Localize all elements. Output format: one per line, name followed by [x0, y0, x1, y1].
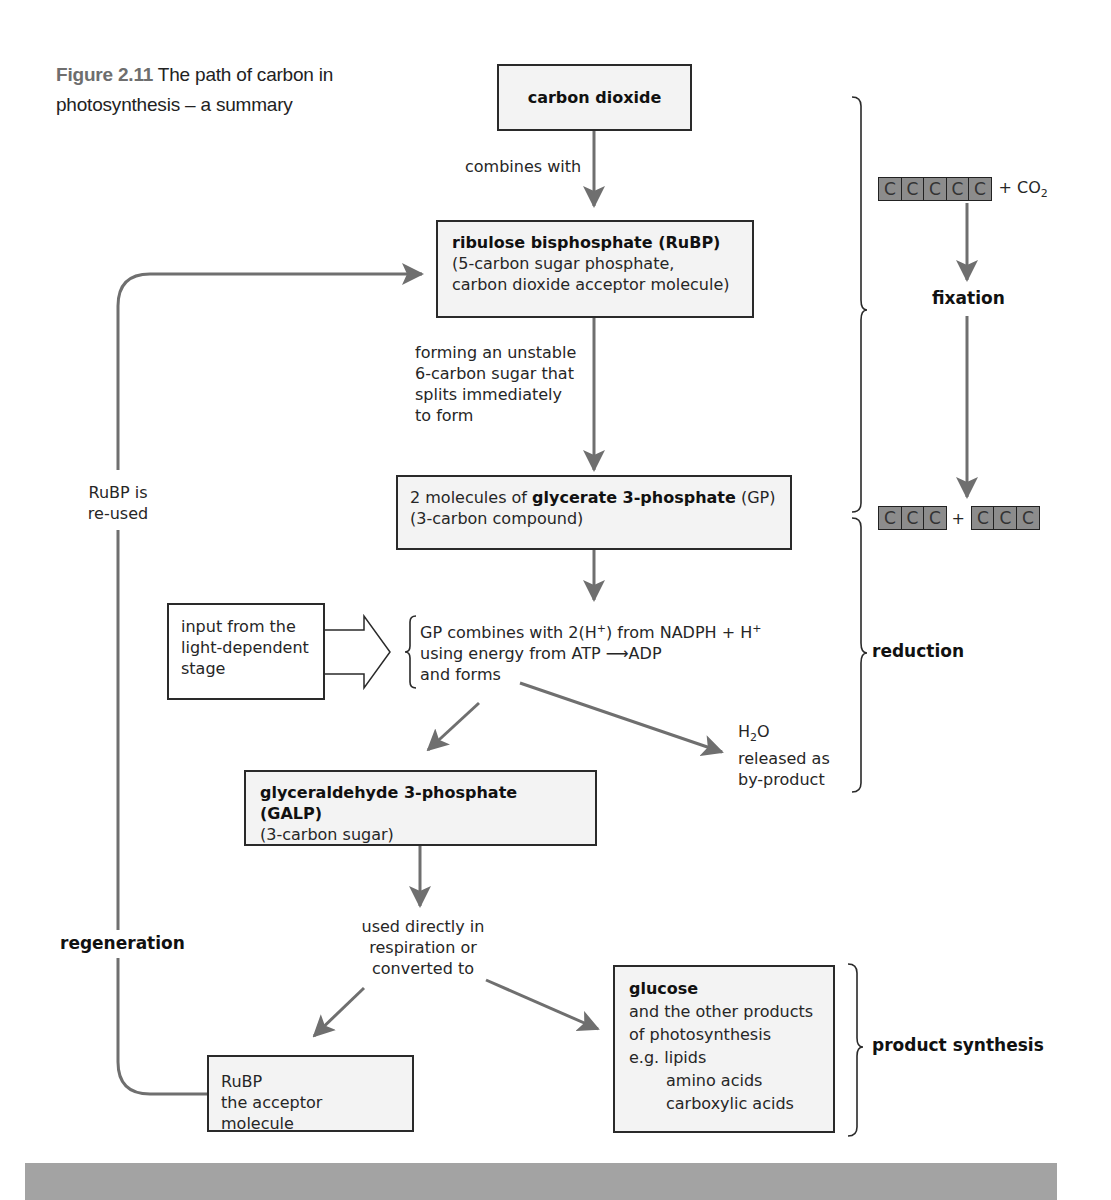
reaction-sup: + — [597, 622, 606, 635]
reused-line: RuBP is — [76, 482, 160, 503]
label-forming-line: forming an unstable — [415, 342, 576, 363]
brace-product-synthesis — [848, 964, 863, 1136]
stage-regeneration: regeneration — [60, 933, 185, 953]
node-glucose-line: and the other products — [629, 1000, 819, 1023]
brace-fixation — [852, 97, 867, 512]
node-glucose-line: amino acids — [629, 1069, 819, 1092]
label-combines-with: combines with — [465, 156, 581, 177]
brace-reaction — [405, 616, 416, 688]
node-gp-line2: (3-carbon compound) — [410, 508, 778, 529]
carbon-atom: C — [878, 506, 902, 530]
node-gp-suffix: (GP) — [736, 488, 776, 507]
node-carbon-dioxide-title: carbon dioxide — [528, 88, 662, 107]
carbon-atom: C — [923, 506, 947, 530]
hollow-arrow-light-input — [324, 616, 390, 688]
arrow-used-to-glucose — [486, 980, 598, 1029]
carbon-atom: C — [923, 177, 947, 201]
node-rubp-acceptor-line1: RuBP — [221, 1071, 400, 1092]
node-glucose: glucose and the other products of photos… — [613, 965, 835, 1133]
node-rubp-acceptor-line2: the acceptor molecule — [221, 1092, 400, 1134]
water-o: O — [757, 722, 770, 741]
right-arrow-icon: ⟶ — [606, 644, 629, 663]
node-rubp-line2: carbon dioxide acceptor molecule) — [452, 274, 738, 295]
reaction-text: ADP — [629, 644, 662, 663]
node-gp-title: glycerate 3-phosphate — [532, 488, 736, 507]
co2-label: + CO2 — [999, 178, 1048, 200]
node-light-input-line: input from the — [181, 616, 311, 637]
water-h: H — [738, 722, 750, 741]
carbon-atom: C — [946, 177, 970, 201]
node-galp-line2: (3-carbon sugar) — [260, 824, 581, 845]
loop-top — [118, 274, 422, 470]
label-forming-line: 6-carbon sugar that — [415, 363, 576, 384]
node-galp-title: glyceraldehyde 3-phosphate (GALP) — [260, 783, 517, 823]
co2-sub: 2 — [1041, 187, 1048, 200]
node-gp: 2 molecules of glycerate 3-phosphate (GP… — [396, 475, 792, 550]
label-rubp-reused: RuBP is re-used — [76, 482, 160, 524]
carbon-atom: C — [878, 177, 902, 201]
reaction-text: using energy from ATP — [420, 644, 606, 663]
carbon-atom: C — [968, 177, 992, 201]
node-galp: glyceraldehyde 3-phosphate (GALP) (3-car… — [244, 770, 597, 846]
water-sub: 2 — [750, 731, 757, 744]
stage-reduction: reduction — [872, 641, 964, 661]
reaction-text: GP combines with 2(H — [420, 623, 597, 642]
carbon-chain-5c: C C C C C + CO2 — [878, 177, 1048, 201]
node-glucose-line: e.g. lipids — [629, 1046, 819, 1069]
node-gp-prefix: 2 molecules of — [410, 488, 532, 507]
stage-product-synthesis: product synthesis — [872, 1035, 1044, 1055]
stage-fixation: fixation — [932, 288, 1005, 308]
node-light-input-line: light-dependent — [181, 637, 311, 658]
used-line: converted to — [355, 958, 491, 979]
node-rubp-title: ribulose bisphosphate (RuBP) — [452, 233, 720, 252]
co2-prefix: + CO — [999, 178, 1041, 197]
plus-sign: + — [952, 509, 965, 528]
loop-bottom — [118, 958, 207, 1094]
arrow-used-to-rubp — [314, 988, 364, 1036]
label-used-directly: used directly in respiration or converte… — [355, 916, 491, 979]
arrow-reaction-to-water — [520, 683, 722, 752]
carbon-atom: C — [1016, 506, 1040, 530]
label-forming-line: splits immediately — [415, 384, 576, 405]
used-line: respiration or — [355, 937, 491, 958]
node-light-input-line: stage — [181, 658, 311, 679]
reaction-text: and forms — [420, 664, 761, 685]
reused-line: re-used — [76, 503, 160, 524]
reaction-text: ) from NADPH + H — [606, 623, 752, 642]
carbon-atom: C — [993, 506, 1017, 530]
water-line2: released as — [738, 748, 830, 769]
node-rubp: ribulose bisphosphate (RuBP) (5-carbon s… — [436, 220, 754, 318]
label-water: H2O released as by-product — [738, 721, 830, 790]
footer-bar — [25, 1163, 1057, 1200]
node-carbon-dioxide: carbon dioxide — [497, 64, 692, 131]
used-line: used directly in — [355, 916, 491, 937]
reaction-sup: + — [752, 622, 761, 635]
node-light-input: input from the light-dependent stage — [167, 603, 325, 700]
carbon-atom: C — [971, 506, 995, 530]
arrow-reaction-to-galp — [428, 703, 479, 750]
node-glucose-title: glucose — [629, 979, 698, 998]
brace-reduction — [852, 518, 867, 792]
node-glucose-line: carboxylic acids — [629, 1092, 819, 1115]
carbon-atom: C — [901, 177, 925, 201]
node-glucose-line: of photosynthesis — [629, 1023, 819, 1046]
label-combines-with-text: combines with — [465, 157, 581, 176]
label-forming-line: to form — [415, 405, 576, 426]
label-forming: forming an unstable 6-carbon sugar that … — [415, 342, 576, 426]
water-line3: by-product — [738, 769, 830, 790]
carbon-atom: C — [901, 506, 925, 530]
node-rubp-acceptor: RuBP the acceptor molecule — [207, 1055, 414, 1132]
carbon-chain-3c-pair: C C C + C C C — [878, 506, 1038, 530]
label-gp-reaction: GP combines with 2(H+) from NADPH + H+ u… — [420, 618, 761, 685]
node-rubp-line1: (5-carbon sugar phosphate, — [452, 253, 738, 274]
